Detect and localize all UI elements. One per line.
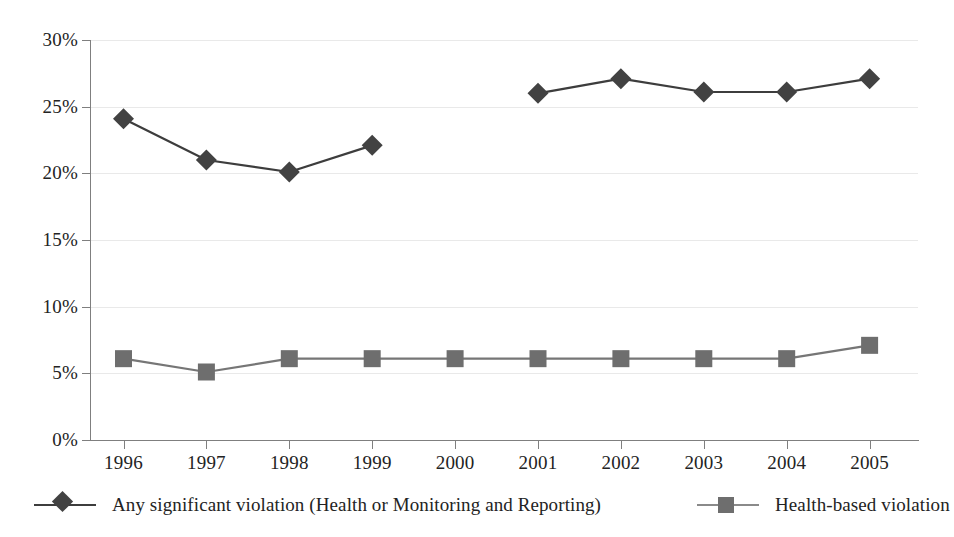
y-tick-label-25: 25%: [2, 97, 78, 116]
gridline-25: [90, 107, 918, 108]
x-tick-label-2002: 2002: [576, 452, 666, 474]
diamond-marker-icon: [34, 494, 96, 516]
chart-container: 30% 25% 20% 15% 10% 5% 0% 1996 1997 1998…: [0, 0, 954, 537]
x-tick-mark: [538, 441, 539, 449]
y-tick-mark: [82, 373, 90, 374]
gridline-5: [90, 373, 918, 374]
gridline-20: [90, 173, 918, 174]
x-tick-label-1996: 1996: [79, 452, 169, 474]
x-axis-line: [90, 440, 919, 441]
x-tick-mark: [704, 441, 705, 449]
x-tick-label-2003: 2003: [659, 452, 749, 474]
x-tick-label-1999: 1999: [327, 452, 417, 474]
x-tick-mark: [289, 441, 290, 449]
y-tick-mark: [82, 173, 90, 174]
x-tick-mark: [124, 441, 125, 449]
y-tick-mark: [82, 440, 90, 441]
y-axis-labels: 30% 25% 20% 15% 10% 5% 0%: [0, 0, 78, 537]
gridline-15: [90, 240, 918, 241]
y-tick-label-20: 20%: [2, 163, 78, 182]
plot-area: [90, 40, 918, 440]
x-tick-label-2005: 2005: [825, 452, 915, 474]
x-tick-mark: [621, 441, 622, 449]
x-tick-label-2000: 2000: [410, 452, 500, 474]
legend-item-health-based-violation[interactable]: Health-based violation: [697, 488, 950, 522]
chart-legend: Any significant violation (Health or Mon…: [0, 488, 954, 528]
y-tick-mark: [82, 40, 90, 41]
y-axis-line: [90, 40, 91, 441]
y-tick-label-0: 0%: [2, 430, 78, 449]
x-tick-label-2001: 2001: [493, 452, 583, 474]
legend-label-any-significant-violation: Any significant violation (Health or Mon…: [112, 494, 601, 516]
x-tick-mark: [372, 441, 373, 449]
x-tick-label-1997: 1997: [161, 452, 251, 474]
y-tick-label-30: 30%: [2, 30, 78, 49]
y-tick-label-10: 10%: [2, 297, 78, 316]
legend-label-health-based-violation: Health-based violation: [775, 494, 950, 516]
y-tick-mark: [82, 107, 90, 108]
legend-item-any-significant-violation[interactable]: Any significant violation (Health or Mon…: [34, 488, 601, 522]
gridline-30: [90, 40, 918, 41]
x-tick-mark: [455, 441, 456, 449]
x-tick-mark: [870, 441, 871, 449]
x-tick-label-1998: 1998: [244, 452, 334, 474]
gridline-10: [90, 307, 918, 308]
y-tick-label-15: 15%: [2, 230, 78, 249]
x-tick-label-2004: 2004: [742, 452, 832, 474]
y-tick-label-5: 5%: [2, 363, 78, 382]
square-marker-icon: [697, 494, 759, 516]
x-tick-mark: [787, 441, 788, 449]
y-tick-mark: [82, 240, 90, 241]
y-tick-mark: [82, 307, 90, 308]
x-tick-mark: [206, 441, 207, 449]
